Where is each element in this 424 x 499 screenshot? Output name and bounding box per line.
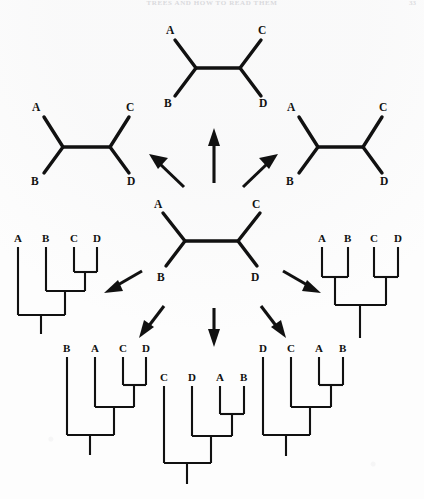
unrooted-center-label-b: B — [157, 271, 165, 283]
unrooted-top-branch-d — [240, 68, 261, 96]
unrooted-left-branch-b — [44, 147, 63, 173]
arrow-left — [104, 271, 142, 293]
unrooted-left-label-d: D — [127, 175, 135, 187]
rooted-br-label-4: B — [339, 342, 347, 354]
rooted-bc-label-4: B — [240, 371, 248, 383]
unrooted-right-label-c: C — [379, 101, 387, 113]
unrooted-left-label-c: C — [126, 101, 134, 113]
unrooted-top-label-a: A — [166, 24, 175, 36]
unrooted-right-upper-branches — [299, 117, 382, 147]
unrooted-right-label-b: B — [286, 175, 294, 187]
rooted-br-label-2: C — [287, 342, 295, 354]
arrow-down — [208, 308, 220, 347]
unrooted-center-branch-d — [238, 241, 257, 266]
rooted-right-label-2: B — [344, 232, 352, 244]
rooted-right-label-4: D — [394, 232, 402, 244]
arrow-up-left — [149, 154, 184, 187]
unrooted-right-label-a: A — [287, 101, 296, 113]
unrooted-right-branch-d — [363, 147, 382, 173]
rooted-bc-label-2: D — [188, 371, 196, 383]
figure-artwork: A C B D A C B D A C B D — [0, 0, 424, 499]
unrooted-top-branch-b — [175, 68, 196, 96]
unrooted-center-label-d: D — [251, 271, 259, 283]
rooted-bl-label-2: A — [91, 342, 99, 354]
rooted-bc-label-1: C — [160, 371, 168, 383]
unrooted-left-label-a: A — [32, 101, 41, 113]
rooted-bl-label-3: C — [119, 342, 127, 354]
unrooted-tree-top: A C B D — [164, 24, 267, 109]
rooted-br-label-3: A — [315, 342, 323, 354]
rooted-tree-right: A B C D — [318, 232, 402, 338]
rooted-right-label-3: C — [370, 232, 378, 244]
rooted-tree-bottom-left: B A C D — [63, 342, 150, 455]
arrow-down-right — [261, 306, 286, 338]
rooted-right-label-1: A — [318, 232, 326, 244]
unrooted-center-label-a: A — [154, 198, 163, 210]
unrooted-center-branch-b — [166, 241, 185, 266]
arrow-up-right — [243, 154, 278, 187]
rooted-left-label-4: D — [93, 232, 101, 244]
unrooted-tree-right: A C B D — [286, 101, 388, 187]
rooted-left-label-3: C — [70, 232, 78, 244]
rooted-bl-label-4: D — [142, 342, 150, 354]
rooted-bl-label-1: B — [63, 342, 71, 354]
unrooted-left-upper-branches — [44, 117, 129, 147]
arrow-right — [283, 271, 321, 293]
unrooted-top-label-c: C — [258, 24, 266, 36]
scanned-page: TREES AND HOW TO READ THEM 33 A C B D A … — [0, 0, 424, 499]
rooted-tree-bottom-center: C D A B — [160, 371, 248, 484]
rooted-tree-bottom-right: D C A B — [259, 342, 347, 456]
unrooted-right-branch-b — [299, 147, 318, 173]
unrooted-left-label-b: B — [31, 175, 39, 187]
unrooted-top-label-d: D — [259, 97, 267, 109]
unrooted-center-label-c: C — [252, 198, 260, 210]
unrooted-tree-center: A C B D — [154, 198, 260, 283]
unrooted-left-branch-d — [110, 147, 129, 173]
rooted-br-label-1: D — [259, 342, 267, 354]
unrooted-center-upper-branches — [163, 213, 260, 241]
unrooted-top-upper-branches — [175, 40, 261, 68]
rooted-tree-left: A B C D — [14, 232, 101, 334]
rooted-left-label-1: A — [14, 232, 22, 244]
unrooted-top-label-b: B — [164, 97, 172, 109]
rooted-left-label-2: B — [42, 232, 50, 244]
arrow-up — [208, 128, 220, 183]
unrooted-tree-left: A C B D — [31, 101, 135, 187]
arrow-down-left — [139, 306, 164, 338]
unrooted-right-label-d: D — [380, 175, 388, 187]
rooted-bc-label-3: A — [216, 371, 224, 383]
